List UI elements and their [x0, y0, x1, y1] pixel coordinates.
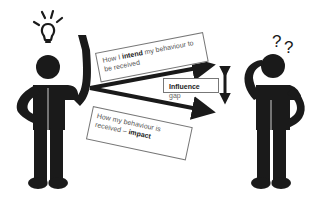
intend-label-bold: intend [121, 49, 143, 60]
gap-label-post: gap [169, 92, 181, 99]
right-figure-head [261, 54, 285, 78]
question-marks-icon: ? ? [272, 32, 293, 57]
left-figure-head [36, 55, 60, 79]
intent-impact-diagram: ? ? [0, 0, 315, 199]
diagram-graphics: ? ? [0, 0, 315, 199]
lightbulb-icon [34, 11, 62, 42]
gap-label-bold: Influence [169, 83, 200, 90]
svg-text:?: ? [272, 32, 281, 51]
influence-gap-label-box: Influence gap [163, 78, 219, 93]
right-figure-receiver [244, 54, 304, 189]
svg-text:?: ? [284, 38, 293, 57]
left-figure-sender [17, 35, 91, 189]
